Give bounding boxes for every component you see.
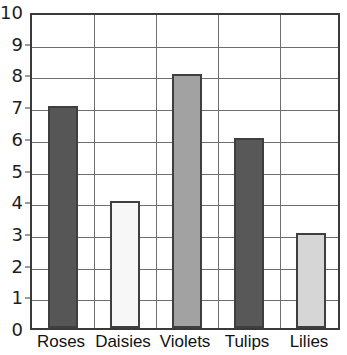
x-tick-label-roses: Roses <box>30 332 92 352</box>
y-tick-label: 0 <box>12 321 23 339</box>
y-tick-label: 1 <box>12 289 23 307</box>
x-tick-label-violets: Violets <box>154 332 216 352</box>
chart-title-cropped <box>0 0 347 12</box>
y-tick-label: 10 <box>0 4 23 22</box>
y-tick-label: 4 <box>12 194 23 212</box>
bars <box>32 15 338 328</box>
x-tick-label-lilies: Lilies <box>278 332 340 352</box>
y-tick-label: 8 <box>12 67 23 85</box>
x-tick-label-daisies: Daisies <box>92 332 154 352</box>
y-tick-label: 5 <box>12 163 23 181</box>
y-tick-label: 9 <box>12 36 23 54</box>
y-tick-label: 3 <box>12 226 23 244</box>
bar-chart: 012345678910 RosesDaisiesVioletsTulipsLi… <box>0 0 347 355</box>
y-tick-label: 6 <box>12 131 23 149</box>
y-axis: 012345678910 <box>0 13 30 330</box>
y-tick-label: 2 <box>12 258 23 276</box>
bar-lilies <box>296 233 326 328</box>
bar-daisies <box>110 201 140 328</box>
bar-tulips <box>234 138 264 328</box>
plot-area <box>30 13 340 330</box>
x-axis: RosesDaisiesVioletsTulipsLilies <box>30 332 340 355</box>
x-tick-label-tulips: Tulips <box>216 332 278 352</box>
bar-violets <box>172 74 202 328</box>
bar-roses <box>48 106 78 328</box>
y-tick-label: 7 <box>12 99 23 117</box>
